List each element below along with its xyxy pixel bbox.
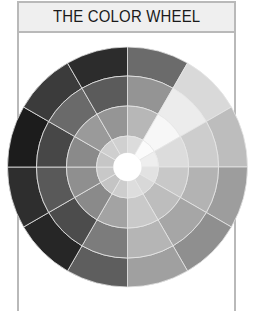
wheel-center: [114, 153, 142, 181]
